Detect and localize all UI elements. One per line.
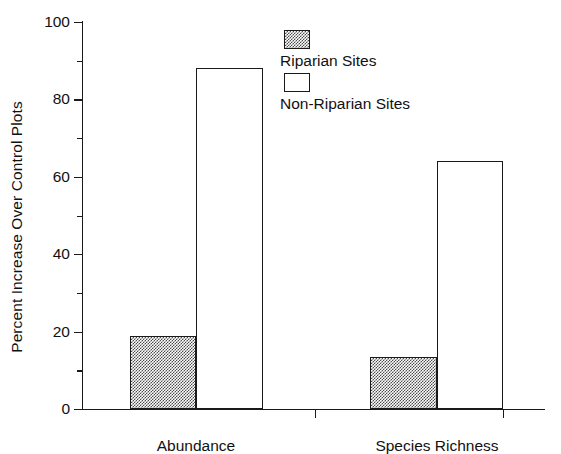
legend-swatch-non-riparian-icon: [284, 73, 310, 92]
x-axis-label-abundance: Abundance: [157, 437, 235, 454]
bar-species-richness-non-riparian: [437, 161, 503, 409]
legend: Riparian Sites Non-Riparian Sites: [280, 30, 510, 116]
y-tick-label-80: 80: [53, 90, 70, 108]
legend-label-non-riparian: Non-Riparian Sites: [280, 94, 510, 113]
bar-abundance-non-riparian: [196, 68, 263, 409]
x-tick-right-end: [503, 409, 504, 418]
legend-item-riparian: Riparian Sites: [280, 30, 510, 70]
legend-label-riparian: Riparian Sites: [280, 51, 510, 70]
x-tick-group-separator: [315, 409, 316, 418]
y-tick-label-100: 100: [44, 13, 70, 31]
y-tick-label-0: 0: [61, 400, 70, 418]
bar-abundance-riparian: [130, 336, 196, 410]
y-tick-label-20: 20: [53, 323, 70, 341]
legend-swatch-riparian-icon: [284, 30, 310, 49]
y-tick-label-40: 40: [53, 245, 70, 263]
bar-species-richness-riparian: [370, 357, 437, 409]
y-tick-label-60: 60: [53, 168, 70, 186]
bar-chart-figure: Percent Increase Over Control Plots 100 …: [0, 0, 561, 454]
legend-item-non-riparian: Non-Riparian Sites: [280, 73, 510, 113]
x-axis-label-species-richness: Species Richness: [375, 437, 498, 454]
y-axis-title: Percent Increase Over Control Plots: [0, 0, 34, 454]
